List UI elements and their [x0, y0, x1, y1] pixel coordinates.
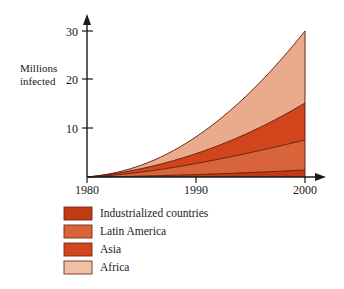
legend-item-asia[interactable]: Asia — [64, 243, 121, 256]
chart-container: 30 20 10 Millions infected 1980 1990 200… — [0, 0, 344, 289]
legend-label-africa: Africa — [100, 261, 129, 273]
legend-item-latin-america[interactable]: Latin America — [64, 225, 166, 238]
stacked-area-chart: 30 20 10 Millions infected 1980 1990 200… — [0, 0, 344, 289]
y-axis-title-line2: infected — [20, 75, 56, 87]
plot-area — [87, 31, 305, 177]
y-tick-label-20: 20 — [66, 73, 78, 87]
x-axis-arrowhead — [315, 173, 326, 181]
y-tick-label-30: 30 — [66, 25, 78, 39]
legend-swatch-industrialized-countries — [64, 207, 92, 220]
y-axis-title-line1: Millions — [20, 62, 57, 74]
legend-swatch-asia — [64, 243, 92, 256]
x-tick-label-1990: 1990 — [184, 183, 208, 197]
x-tick-label-2000: 2000 — [293, 183, 317, 197]
legend-label-asia: Asia — [100, 243, 121, 255]
x-tick-label-1980: 1980 — [75, 183, 99, 197]
chart-legend: Industrialized countries Latin America A… — [64, 207, 209, 274]
y-tick-label-10: 10 — [66, 122, 78, 136]
y-axis-arrowhead — [83, 14, 91, 25]
legend-swatch-africa — [64, 261, 92, 274]
legend-label-industrialized-countries: Industrialized countries — [100, 207, 209, 219]
x-axis: 1980 1990 2000 — [75, 173, 326, 197]
legend-item-africa[interactable]: Africa — [64, 261, 129, 274]
legend-label-latin-america: Latin America — [100, 225, 166, 237]
y-axis: 30 20 10 Millions infected — [20, 14, 93, 177]
legend-swatch-latin-america — [64, 225, 92, 238]
legend-item-industrialized-countries[interactable]: Industrialized countries — [64, 207, 209, 220]
